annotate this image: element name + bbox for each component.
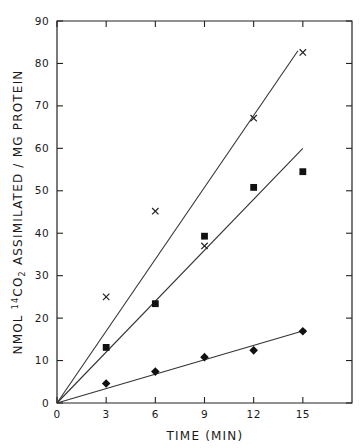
fit-line-square-series: [57, 148, 303, 403]
axis-frame: [57, 21, 352, 403]
data-point-square: [201, 233, 208, 240]
y-tick-label: 40: [35, 227, 49, 239]
y-tick-label: 80: [35, 57, 49, 69]
data-point-square: [250, 184, 257, 191]
data-point-diamond: [249, 346, 258, 355]
x-tick-label: 6: [152, 408, 159, 420]
data-point-diamond: [102, 379, 111, 388]
axis-frame-path: [57, 21, 352, 403]
x-tick-label: 9: [201, 408, 208, 420]
data-point-square: [299, 168, 306, 175]
series-fit-lines: [57, 51, 306, 403]
y-tick-label: 50: [35, 184, 49, 196]
data-point-cross: [152, 208, 158, 214]
x-axis-ticks: [57, 21, 303, 403]
y-tick-label: 10: [35, 354, 49, 366]
y-tick-label: 0: [42, 397, 49, 409]
y-axis-tick-labels: 0102030405060708090: [35, 15, 49, 409]
data-point-cross: [103, 294, 109, 300]
x-tick-label: 12: [247, 408, 261, 420]
y-axis-title: NMOL 14CO2 ASSIMILATED / MG PROTEIN: [11, 69, 27, 354]
fit-line-cross-series: [57, 51, 298, 403]
data-point-diamond: [299, 327, 308, 336]
x-tick-label: 3: [103, 408, 110, 420]
data-point-cross: [300, 49, 306, 55]
data-point-square: [103, 344, 110, 351]
y-tick-label: 20: [35, 312, 49, 324]
data-point-cross: [201, 243, 207, 249]
x-tick-label: 0: [53, 408, 60, 420]
y-tick-label: 70: [35, 99, 49, 111]
series-data-markers: [102, 49, 307, 388]
fit-line-diamond-series: [57, 330, 306, 403]
y-tick-label: 90: [35, 15, 49, 27]
x-axis-title: TIME (MIN): [166, 429, 244, 443]
y-tick-label: 60: [35, 142, 49, 154]
x-tick-label: 15: [296, 408, 310, 420]
y-axis-ticks: [57, 21, 352, 403]
x-axis-tick-labels: 03691215: [53, 408, 309, 420]
data-point-square: [152, 300, 159, 307]
y-tick-label: 30: [35, 269, 49, 281]
scatter-plot: 0102030405060708090 03691215 TIME (MIN) …: [0, 0, 364, 448]
figure-panel: 0102030405060708090 03691215 TIME (MIN) …: [0, 0, 364, 448]
